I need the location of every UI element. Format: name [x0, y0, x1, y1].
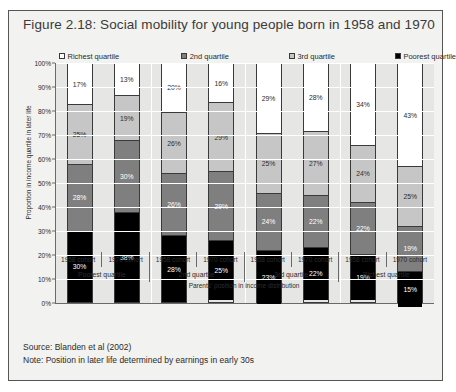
bar-segment: 29% — [257, 64, 281, 133]
bar-segment: 17% — [68, 64, 92, 104]
quartile-label-row: Poorest quartile2nd quartile3rd quartile… — [55, 267, 433, 282]
cohort-group: 1958 cohort1970 cohort — [339, 252, 433, 267]
bar-segment: 25% — [398, 166, 422, 226]
bar-segment: 34% — [351, 64, 375, 145]
x-axis-title: Parents' position in income distribution — [55, 282, 433, 289]
bar-segment: 19% — [115, 95, 139, 140]
cohort-group: 1958 cohort1970 cohort — [55, 252, 150, 267]
y-axis-tick-label: 50% — [38, 180, 51, 187]
bar-segment-label: 29% — [262, 95, 276, 102]
cohort-group: 1958 cohort1970 cohort — [150, 252, 245, 267]
method-note: Note: Position in later life determined … — [23, 354, 433, 367]
bar-segment-label: 30% — [120, 173, 134, 180]
bar-segment-label: 19% — [120, 115, 134, 122]
bar-segment: 24% — [257, 193, 281, 250]
cohort-label: 1958 cohort — [55, 252, 102, 267]
legend-swatch-icon — [181, 53, 187, 59]
figure-title: Figure 2.18: Social mobility for young p… — [23, 17, 435, 32]
source-note: Source: Blanden et al (2002) — [23, 341, 433, 354]
legend-item-label: Poorest quartile — [403, 52, 456, 61]
cohort-label: 1970 cohort — [387, 252, 433, 267]
bar-segment: 22% — [351, 202, 375, 254]
bar-segment: 24% — [351, 145, 375, 202]
figure-panel: Figure 2.18: Social mobility for young p… — [8, 10, 443, 381]
bar-segment: 30% — [115, 140, 139, 211]
cohort-label: 1970 cohort — [292, 252, 338, 267]
bar-segment: 13% — [115, 64, 139, 95]
cohort-label: 1958 cohort — [150, 252, 197, 267]
legend-swatch-icon — [395, 53, 401, 59]
bar-segment-label: 24% — [262, 218, 276, 225]
y-axis-tick-label: 30% — [38, 228, 51, 235]
y-axis-tick-label: 20% — [38, 252, 51, 259]
bar-segment: 16% — [209, 64, 233, 102]
legend-item-richest: Richest quartile — [59, 52, 119, 61]
bar-segment: 28% — [68, 164, 92, 231]
parent-quartile-label: Poorest quartile — [55, 267, 150, 282]
bar-segment: 29% — [209, 102, 233, 171]
legend-swatch-icon — [59, 53, 65, 59]
bar-segment-label: 28% — [309, 94, 323, 101]
cohort-label: 1970 cohort — [102, 252, 148, 267]
legend-item-third: 3rd quartile — [289, 52, 335, 61]
cohort-label-row: 1958 cohort1970 cohort1958 cohort1970 co… — [55, 252, 433, 267]
bar-segment: 22% — [304, 195, 328, 247]
bar-segment-label: 27% — [309, 160, 323, 167]
legend-item-poorest: Poorest quartile — [395, 52, 456, 61]
bar-segment-label: 24% — [356, 170, 370, 177]
cohort-group: 1958 cohort1970 cohort — [245, 252, 340, 267]
bar-segment-label: 26% — [167, 140, 181, 147]
bar-segment-label: 43% — [404, 112, 418, 119]
y-axis-ticks: 0%10%20%30%40%50%60%70%80%90%100% — [25, 63, 55, 303]
bar-segment-label: 16% — [215, 80, 229, 87]
y-axis-tick-label: 90% — [38, 84, 51, 91]
bar-segment-label: 22% — [309, 218, 323, 225]
cohort-label: 1958 cohort — [245, 252, 292, 267]
y-axis-tick-label: 70% — [38, 132, 51, 139]
bar-segment-label: 25% — [262, 160, 276, 167]
cohort-label: 1958 cohort — [339, 252, 386, 267]
parent-quartile-label: 2nd quartile — [150, 267, 245, 282]
y-axis-tick-label: 60% — [38, 156, 51, 163]
y-axis-tick-label: 80% — [38, 108, 51, 115]
parent-quartile-label: Richest quartile — [339, 267, 433, 282]
category-axis: 1958 cohort1970 cohort1958 cohort1970 co… — [55, 252, 433, 292]
bar-segment-label: 25% — [404, 193, 418, 200]
legend-item-second: 2nd quartile — [181, 52, 229, 61]
cohort-label: 1970 cohort — [197, 252, 243, 267]
y-axis-tick-label: 40% — [38, 204, 51, 211]
figure-footnotes: Source: Blanden et al (2002) Note: Posit… — [23, 341, 433, 367]
bar-segment-label: 13% — [120, 76, 134, 83]
y-axis-tick-label: 0% — [42, 300, 51, 307]
legend-item-label: Richest quartile — [68, 52, 120, 61]
bar-segment-label: 28% — [73, 194, 87, 201]
legend-item-label: 3rd quartile — [297, 52, 335, 61]
chart-legend: Richest quartile2nd quartile3rd quartile… — [25, 49, 430, 63]
bar-segment: 26% — [162, 112, 186, 174]
y-axis-tick-label: 10% — [38, 276, 51, 283]
legend-item-label: 2nd quartile — [190, 52, 229, 61]
bar-segment-label: 34% — [356, 101, 370, 108]
parent-quartile-label: 3rd quartile — [245, 267, 340, 282]
bar-segment: 28% — [304, 64, 328, 131]
bar-segment: 43% — [398, 64, 422, 166]
bar-segment: 29% — [209, 171, 233, 240]
y-axis-tick-label: 100% — [34, 60, 51, 67]
legend-swatch-icon — [289, 53, 295, 59]
bar-segment: 27% — [304, 131, 328, 195]
